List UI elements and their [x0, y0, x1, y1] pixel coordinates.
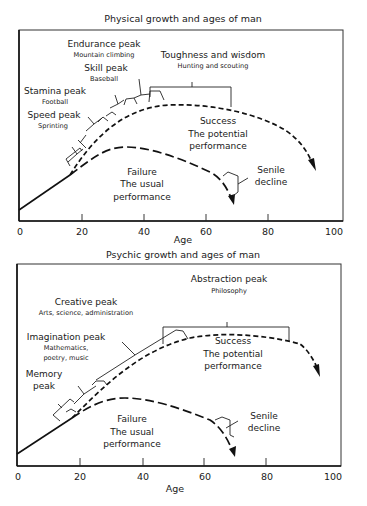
success-label: Success: [200, 116, 237, 126]
endurance-peak-label: Endurance peak: [67, 39, 141, 49]
failure-label: performance: [103, 439, 161, 449]
senile-label: decline: [248, 423, 281, 433]
tick-label: 80: [262, 226, 274, 237]
success-label: The potential: [187, 129, 248, 139]
speed-peak-label: Speed peak: [27, 110, 81, 120]
tick-label: 0: [17, 226, 23, 237]
x-axis-label: Age: [166, 483, 185, 494]
failure-label: Failure: [127, 167, 157, 177]
failure-label: performance: [113, 192, 171, 202]
diagram-canvas: Physical growth and ages of man 0 20 40 …: [0, 0, 367, 506]
tick-label: 60: [199, 471, 211, 482]
imagination-peak-sub: Mathematics,: [44, 344, 89, 352]
physical-growth-chart: Physical growth and ages of man 0 20 40 …: [17, 13, 343, 245]
tick-label: 40: [138, 226, 150, 237]
tick-label: 100: [325, 226, 343, 237]
success-label: Success: [215, 336, 252, 346]
senile-label: decline: [255, 177, 288, 187]
skill-peak-label: Skill peak: [84, 63, 128, 73]
success-arrow-icon: [313, 364, 320, 377]
tick-label: 40: [137, 471, 149, 482]
chart-frame: [17, 264, 341, 466]
senile-label: Senile: [257, 165, 285, 175]
success-label: performance: [189, 141, 247, 151]
abstraction-peak-label: Abstraction peak: [191, 274, 268, 284]
senile-label: Senile: [250, 411, 278, 421]
x-axis-label: Age: [174, 234, 193, 245]
skill-peak-sub: Baseball: [90, 75, 118, 83]
growth-line: [17, 418, 72, 454]
creative-peak-label: Creative peak: [55, 297, 118, 307]
x-ticks: [82, 214, 268, 221]
tick-label: 80: [261, 471, 273, 482]
creative-peak-sub: Arts, science, administration: [39, 309, 133, 317]
tick-label: 100: [324, 471, 342, 482]
toughness-sub: Hunting and scouting: [178, 62, 249, 70]
failure-arrow-icon: [229, 446, 236, 457]
memory-peak-label: Memory: [26, 369, 63, 379]
toughness-label: Toughness and wisdom: [160, 50, 265, 60]
endurance-peak-sub: Mountain climbing: [74, 51, 135, 59]
speed-peak-sub: Sprinting: [38, 122, 68, 130]
failure-label: The usual: [119, 179, 164, 189]
chart-title: Physical growth and ages of man: [104, 13, 262, 24]
tick-label: 0: [15, 471, 21, 482]
imagination-peak-label: Imagination peak: [27, 332, 106, 342]
success-curve: [72, 335, 318, 418]
senile-bracket: [223, 172, 248, 196]
chart-title: Psychic growth and ages of man: [106, 249, 260, 260]
success-arrow-icon: [308, 158, 316, 171]
tick-label: 20: [74, 471, 86, 482]
abstraction-peak-sub: Philosophy: [211, 287, 247, 295]
memory-peak-label: peak: [33, 381, 56, 391]
psychic-growth-chart: Psychic growth and ages of man 0 20 40 6…: [15, 249, 342, 494]
failure-label: The usual: [109, 427, 154, 437]
stamina-peak-label: Stamina peak: [24, 86, 87, 96]
success-label: performance: [204, 361, 262, 371]
imagination-peak-sub: poetry, music: [43, 354, 89, 362]
stamina-peak-sub: Football: [42, 98, 68, 106]
growth-line: [19, 175, 70, 210]
x-ticks: [80, 458, 266, 466]
tick-label: 20: [76, 226, 88, 237]
success-label: The potential: [202, 349, 263, 359]
failure-label: Failure: [117, 414, 147, 424]
tick-label: 60: [200, 226, 212, 237]
